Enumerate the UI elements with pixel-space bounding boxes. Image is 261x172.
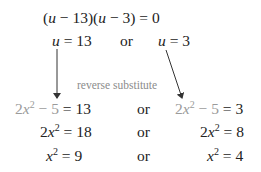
reverse-substitute-label: reverse substitute (77, 80, 157, 92)
or-connector: or (137, 148, 150, 164)
row-2-left: 2x2 = 18 (40, 124, 92, 140)
row-1-right: 2x2 − 5 = 3 (175, 101, 243, 117)
arrow-diagonal-icon (166, 50, 182, 98)
substituted-expression: 2x2 − 5 (15, 100, 59, 117)
row-2-right: 2x2 = 8 (200, 124, 244, 140)
or-connector: or (137, 101, 150, 117)
or-connector: or (137, 124, 150, 140)
row-3-right: x2 = 4 (207, 148, 243, 164)
substituted-expression: 2x2 − 5 (175, 100, 219, 117)
equation-rhs: = 13 (59, 100, 91, 117)
equation-rhs: = 3 (219, 100, 243, 117)
row-1-left: 2x2 − 5 = 13 (15, 101, 91, 117)
row-3-left: x2 = 9 (46, 148, 82, 164)
